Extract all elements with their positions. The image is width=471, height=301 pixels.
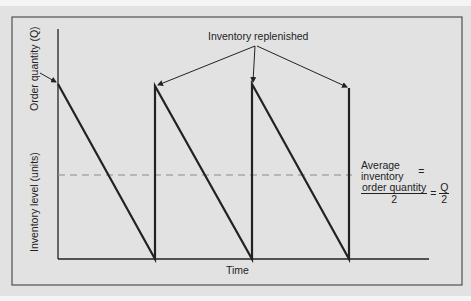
- replenish-arrow-2: [253, 46, 255, 82]
- inventory-sawtooth: [58, 84, 349, 259]
- fraction-denominator: 2: [391, 194, 397, 205]
- average-inventory-formula: Average inventory = order quantity 2 = Q…: [361, 160, 449, 205]
- order-quantity-arrow: [40, 73, 56, 82]
- q-fraction: Q 2: [439, 182, 449, 205]
- replenish-arrow-3: [257, 46, 347, 87]
- replenished-label: Inventory replenished: [208, 30, 308, 42]
- equals-sign-2: =: [430, 188, 436, 199]
- order-quantity-label: Order quantity (Q): [28, 26, 40, 111]
- chart-svg: [0, 0, 471, 301]
- q-denominator: 2: [441, 194, 447, 205]
- equals-sign: =: [418, 166, 424, 177]
- order-qty-fraction: order quantity 2: [361, 182, 427, 205]
- x-axis-label: Time: [226, 264, 249, 276]
- inventory-level-label: Inventory level (units): [28, 152, 40, 252]
- outer-frame: [12, 17, 462, 285]
- replenish-arrow-1: [158, 46, 255, 85]
